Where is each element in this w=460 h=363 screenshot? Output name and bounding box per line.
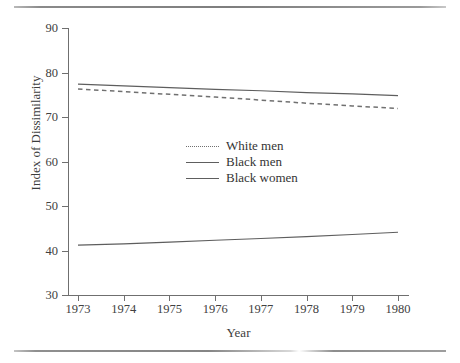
- legend-label: Black men: [226, 155, 282, 169]
- y-tick-label: 90: [30, 22, 58, 35]
- legend-item: Black women: [186, 170, 336, 186]
- series-line-white-men: [78, 89, 398, 109]
- x-tick-label: 1973: [53, 303, 103, 316]
- legend-item: Black men: [186, 154, 336, 170]
- legend-line-icon: [186, 146, 219, 147]
- legend-item: White men: [186, 138, 336, 154]
- x-tick-label: 1978: [282, 303, 332, 316]
- legend-line-icon: [186, 178, 219, 179]
- x-tick: [352, 295, 353, 301]
- x-tick-label: 1980: [373, 303, 423, 316]
- legend-swatch-solid-line-icon: [186, 173, 219, 183]
- y-tick: [62, 295, 69, 296]
- y-tick-label: 30: [30, 289, 58, 302]
- x-tick-label: 1977: [236, 303, 286, 316]
- y-tick-label: 40: [30, 245, 58, 258]
- x-tick: [261, 295, 262, 301]
- x-tick-label: 1979: [327, 303, 377, 316]
- x-tick: [398, 295, 399, 301]
- legend-swatch-dashed-line-icon: [186, 141, 219, 151]
- series-line-black-men: [78, 84, 398, 96]
- x-axis-title: Year: [68, 325, 409, 341]
- x-tick: [215, 295, 216, 301]
- legend-swatch-solid-line-icon: [186, 157, 219, 167]
- series-line-black-women: [78, 232, 398, 245]
- x-tick: [78, 295, 79, 301]
- x-axis-line: [68, 295, 409, 296]
- x-tick: [124, 295, 125, 301]
- legend-label: White men: [226, 139, 283, 153]
- x-tick: [307, 295, 308, 301]
- legend-line-icon: [186, 162, 219, 163]
- x-tick: [169, 295, 170, 301]
- y-axis-title: Index of Dissimilarity: [28, 53, 44, 213]
- x-tick-label: 1974: [99, 303, 149, 316]
- legend-label: Black women: [226, 171, 298, 185]
- x-tick-label: 1975: [144, 303, 194, 316]
- x-tick-label: 1976: [190, 303, 240, 316]
- line-chart-figure: 90807060504030 1973197419751976197719781…: [0, 0, 460, 363]
- chart-legend: White menBlack menBlack women: [186, 138, 336, 186]
